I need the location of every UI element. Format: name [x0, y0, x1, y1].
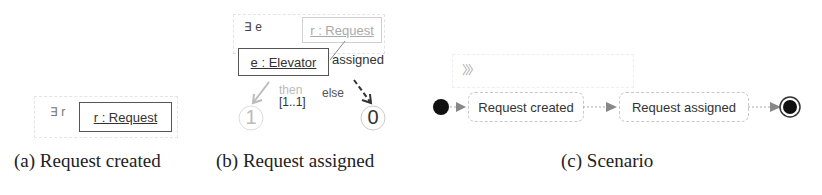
transition-arrow: [450, 102, 466, 112]
transition-arrow: [748, 102, 781, 112]
panel-c-flow: [0, 0, 822, 195]
transition-arrow: [583, 102, 617, 112]
initial-state-icon: [433, 99, 449, 115]
final-state-icon: [780, 97, 800, 117]
